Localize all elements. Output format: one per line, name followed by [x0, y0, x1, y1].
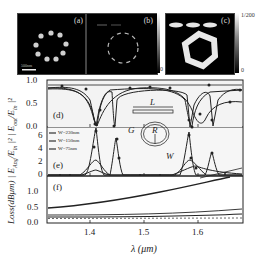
- panel-f-label: (f): [53, 182, 62, 192]
- x-axis-label: λ (μm): [131, 243, 157, 254]
- inset-L: L: [150, 97, 155, 107]
- panel-d-label: (d): [53, 110, 64, 120]
- panel-e-label: (e): [53, 160, 63, 170]
- legend: W=230nm W=150nm W=75nm: [58, 129, 79, 153]
- y-axis-label-combined: Loss(dBμm) | EAng/Ein |² | Eout/Ein |²: [6, 74, 18, 224]
- inset-W: W: [166, 151, 174, 161]
- inset-G: G: [128, 125, 135, 135]
- inset-R: R: [152, 125, 158, 135]
